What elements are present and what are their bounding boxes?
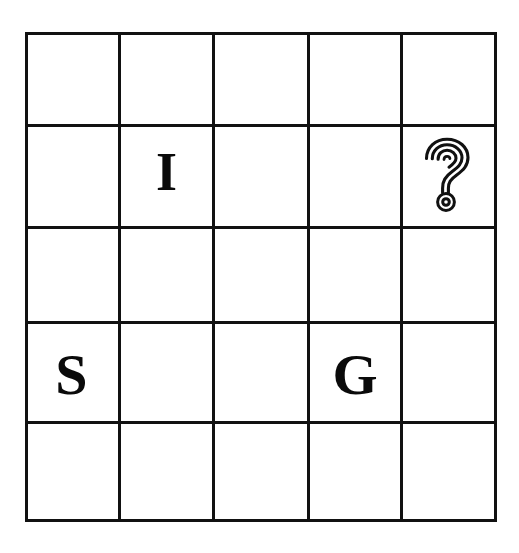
grid-cell-r4c2[interactable] (121, 324, 215, 424)
grid-cell-r3c3[interactable] (215, 229, 310, 324)
cell-label-start-letter-i: I (156, 145, 177, 199)
grid-cell-r5c4[interactable] (310, 424, 403, 522)
cell-label-start-letter-s: S (55, 346, 87, 404)
grid-cell-r4c3[interactable] (215, 324, 310, 424)
cell-label-goal-letter-g: G (332, 346, 377, 404)
grid-cell-r5c5[interactable] (403, 424, 497, 522)
grid-cell-r3c1[interactable] (25, 229, 121, 324)
grid-cell-r2c5[interactable] (403, 127, 497, 229)
grid-cell-r2c2[interactable]: I (121, 127, 215, 229)
grid-cell-r3c5[interactable] (403, 229, 497, 324)
grid-cell-r5c1[interactable] (25, 424, 121, 522)
grid-row (25, 424, 497, 522)
grid-cell-r1c1[interactable] (25, 32, 121, 127)
grid-row: S G (25, 324, 497, 424)
grid-cell-r1c3[interactable] (215, 32, 310, 127)
question-mark-icon (422, 136, 478, 212)
grid-cell-r2c1[interactable] (25, 127, 121, 229)
grid-cell-r4c4[interactable]: G (310, 324, 403, 424)
grid-cell-r1c4[interactable] (310, 32, 403, 127)
grid-cell-r5c2[interactable] (121, 424, 215, 522)
grid-cell-r2c3[interactable] (215, 127, 310, 229)
grid-row (25, 32, 497, 127)
grid-cell-r4c5[interactable] (403, 324, 497, 424)
grid-cell-r3c4[interactable] (310, 229, 403, 324)
grid-cell-r1c2[interactable] (121, 32, 215, 127)
grid-cell-r1c5[interactable] (403, 32, 497, 127)
puzzle-grid: I (25, 32, 497, 522)
grid-row: I (25, 127, 497, 229)
grid-cell-r5c3[interactable] (215, 424, 310, 522)
grid-cell-r2c4[interactable] (310, 127, 403, 229)
grid-row (25, 229, 497, 324)
grid-cell-r3c2[interactable] (121, 229, 215, 324)
grid-cell-r4c1[interactable]: S (25, 324, 121, 424)
